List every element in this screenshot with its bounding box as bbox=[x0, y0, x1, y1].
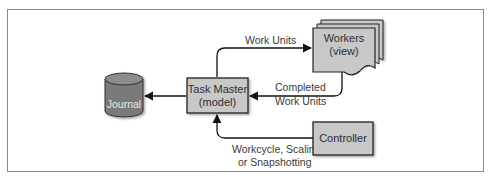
completed-label-line1: Completed bbox=[275, 81, 326, 93]
control-label-line1: Workcycle, Scaling, bbox=[232, 143, 323, 155]
completed-label-line2: Work Units bbox=[275, 95, 326, 107]
workers-label-line1: Workers bbox=[324, 32, 365, 44]
journal-label: Journal bbox=[107, 98, 141, 110]
journal-node bbox=[105, 73, 143, 117]
work-units-label: Work Units bbox=[245, 34, 296, 46]
workers-node: Workers (view) bbox=[313, 20, 383, 75]
task-master-label-line1: Task Master bbox=[188, 83, 248, 95]
edge-work-units: Work Units bbox=[217, 34, 311, 77]
controller-node: Controller bbox=[313, 122, 373, 155]
control-label-line2: or Snapshotting bbox=[238, 156, 312, 168]
task-master-label-line2: (model) bbox=[199, 96, 236, 108]
diagram-canvas: Work Units Completed Work Units Workcycl… bbox=[0, 0, 493, 176]
task-master-node: Task Master (model) bbox=[187, 78, 248, 113]
workers-label-line2: (view) bbox=[329, 45, 358, 57]
edge-controller-to-task-master: Workcycle, Scaling, or Snapshotting bbox=[217, 115, 323, 168]
controller-label: Controller bbox=[319, 132, 367, 144]
